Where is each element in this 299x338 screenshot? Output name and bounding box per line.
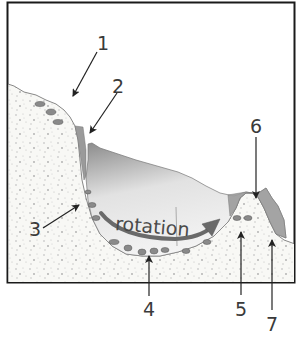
label-6: 6 [250,115,262,137]
label-2: 2 [112,75,124,97]
label-1: 1 [97,32,109,54]
label-3: 3 [29,218,41,240]
label-4: 4 [143,298,155,320]
cirque-diagram: rotation 1 2 3 4 5 6 7 [0,0,299,338]
label-5: 5 [235,298,247,320]
label-7: 7 [266,313,278,335]
